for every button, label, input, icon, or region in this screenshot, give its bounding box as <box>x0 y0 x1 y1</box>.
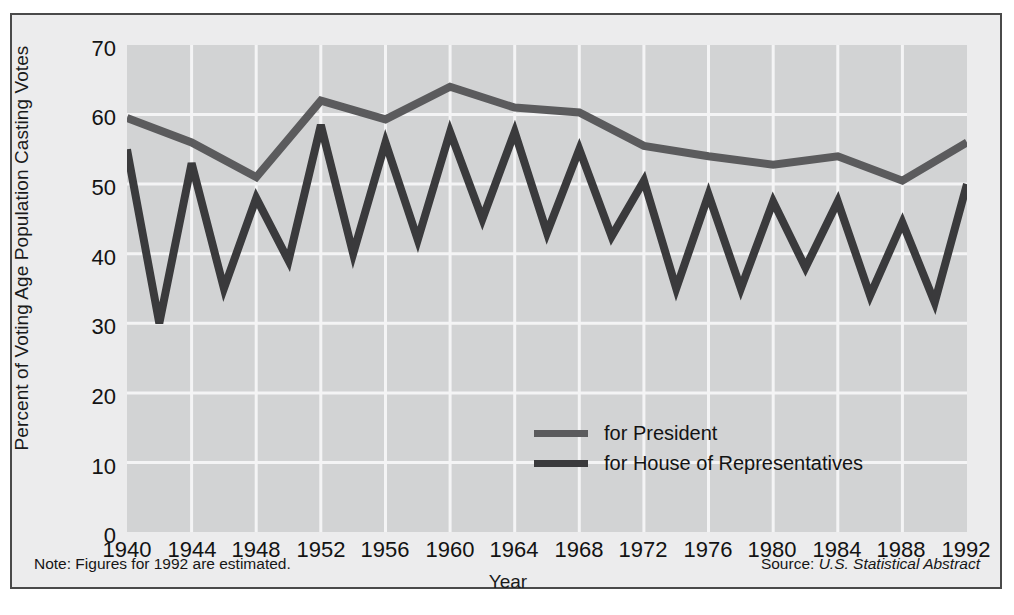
y-tick-label: 30 <box>52 316 116 338</box>
figure-frame: Percent of Voting Age Population Casting… <box>10 13 1002 589</box>
footer-note: Note: Figures for 1992 are estimated. <box>34 555 291 573</box>
y-axis-title: Percent of Voting Age Population Casting… <box>11 0 33 528</box>
y-tick-label: 20 <box>52 386 116 408</box>
footer-source: Source: U.S. Statistical Abstract <box>761 555 980 573</box>
y-tick-label: 50 <box>52 177 116 199</box>
series-line-president <box>127 87 967 181</box>
footer-source-prefix: Source: <box>761 555 819 572</box>
y-tick-label: 60 <box>52 107 116 129</box>
legend-label-house: for House of Representatives <box>604 452 863 475</box>
x-axis-title: Year <box>12 571 1004 593</box>
y-tick-label: 10 <box>52 456 116 478</box>
legend-label-president: for President <box>604 422 717 445</box>
legend-entry-president: for President <box>534 418 863 448</box>
legend-swatch-president <box>534 430 588 437</box>
legend-entry-house: for House of Representatives <box>534 448 863 478</box>
gridlines-horizontal <box>127 115 967 463</box>
y-tick-label: 40 <box>52 247 116 269</box>
y-tick-label: 70 <box>52 38 116 60</box>
chart-screenshot: Percent of Voting Age Population Casting… <box>0 0 1014 615</box>
footer-source-name: U.S. Statistical Abstract <box>819 555 980 572</box>
chart-legend: for President for House of Representativ… <box>534 418 863 478</box>
legend-swatch-house <box>534 460 588 467</box>
